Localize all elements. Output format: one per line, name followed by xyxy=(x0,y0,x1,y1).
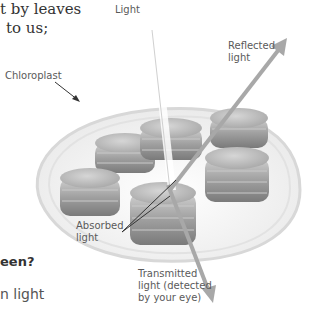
page-text-fragment: n light xyxy=(0,286,44,302)
page-question: een? xyxy=(0,254,34,269)
absorbed-line1: Absorbed xyxy=(76,220,123,232)
chloroplast-label: Chloroplast xyxy=(5,70,62,82)
transmitted-line2: light (detected xyxy=(138,280,212,292)
transmitted-line3: by your eye) xyxy=(138,292,212,304)
reflected-line1: Reflected xyxy=(228,40,275,52)
reflected-light-label: Reflected light xyxy=(228,40,275,64)
absorbed-line2: light xyxy=(76,232,123,244)
transmitted-light-label: Transmitted light (detected by your eye) xyxy=(138,268,212,304)
reflected-line2: light xyxy=(228,52,275,64)
page-text-line2: to us; xyxy=(6,19,48,38)
page-text-line1: t by leaves xyxy=(0,0,81,19)
light-label: Light xyxy=(115,4,140,16)
transmitted-line1: Transmitted xyxy=(138,268,212,280)
absorbed-light-label: Absorbed light xyxy=(76,220,123,244)
